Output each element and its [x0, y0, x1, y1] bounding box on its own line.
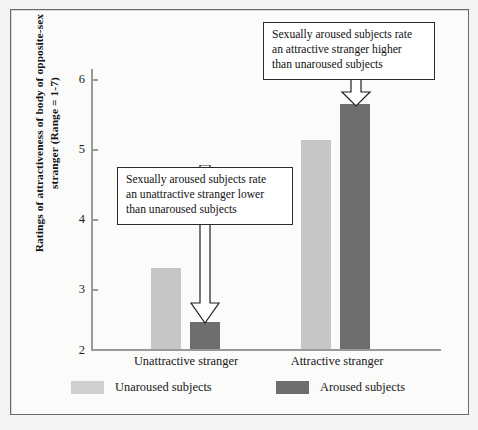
- callout-unattractive-line-3: than unaroused subjects: [126, 203, 284, 218]
- y-tick-label-3: 3: [61, 282, 85, 297]
- chart-frame: Ratings of attractiveness of body of opp…: [10, 9, 469, 415]
- y-tick-5: [91, 149, 98, 151]
- callout-attractive-line-3: than unaroused subjects: [272, 58, 426, 73]
- y-tick-4: [91, 219, 98, 221]
- y-axis-title: Ratings of attractiveness of body of opp…: [32, 13, 62, 253]
- x-axis-line: [91, 349, 441, 351]
- callout-unattractive-line-2: an unattractive stranger lower: [126, 188, 284, 203]
- legend-item-aroused: Aroused subjects: [276, 380, 405, 395]
- legend-item-unaroused: Unaroused subjects: [71, 380, 212, 395]
- callout-unattractive: Sexually aroused subjects rate an unattr…: [117, 167, 293, 225]
- x-category-label-attractive: Attractive stranger: [267, 354, 407, 369]
- chart-legend: Unaroused subjects Aroused subjects: [71, 380, 471, 402]
- y-tick-6: [91, 79, 98, 81]
- bar-unattractive-aroused: [190, 322, 220, 349]
- y-tick-label-5: 5: [61, 142, 85, 157]
- callout-arrow-attractive-icon: [338, 77, 374, 107]
- x-category-label-unattractive: Unattractive stranger: [111, 354, 261, 369]
- bar-attractive-aroused: [340, 104, 370, 349]
- y-tick-2: [91, 349, 98, 351]
- callout-attractive-line-2: an attractive stranger higher: [272, 43, 426, 58]
- legend-swatch-unaroused-icon: [71, 381, 104, 394]
- bar-attractive-unaroused: [301, 140, 331, 349]
- y-axis-line: [91, 69, 93, 351]
- callout-unattractive-line-1: Sexually aroused subjects rate: [126, 173, 284, 188]
- y-tick-3: [91, 289, 98, 291]
- legend-swatch-aroused-icon: [276, 381, 309, 394]
- legend-label-aroused: Aroused subjects: [320, 380, 405, 395]
- y-tick-label-2: 2: [61, 343, 85, 358]
- y-tick-label-4: 4: [61, 212, 85, 227]
- callout-attractive: Sexually aroused subjects rate an attrac…: [263, 22, 435, 80]
- legend-label-unaroused: Unaroused subjects: [115, 380, 212, 395]
- y-tick-label-6: 6: [61, 72, 85, 87]
- plot-area: Ratings of attractiveness of body of opp…: [11, 10, 468, 414]
- bar-unattractive-unaroused: [151, 268, 181, 349]
- callout-attractive-line-1: Sexually aroused subjects rate: [272, 28, 426, 43]
- figure-canvas: Ratings of attractiveness of body of opp…: [0, 0, 478, 430]
